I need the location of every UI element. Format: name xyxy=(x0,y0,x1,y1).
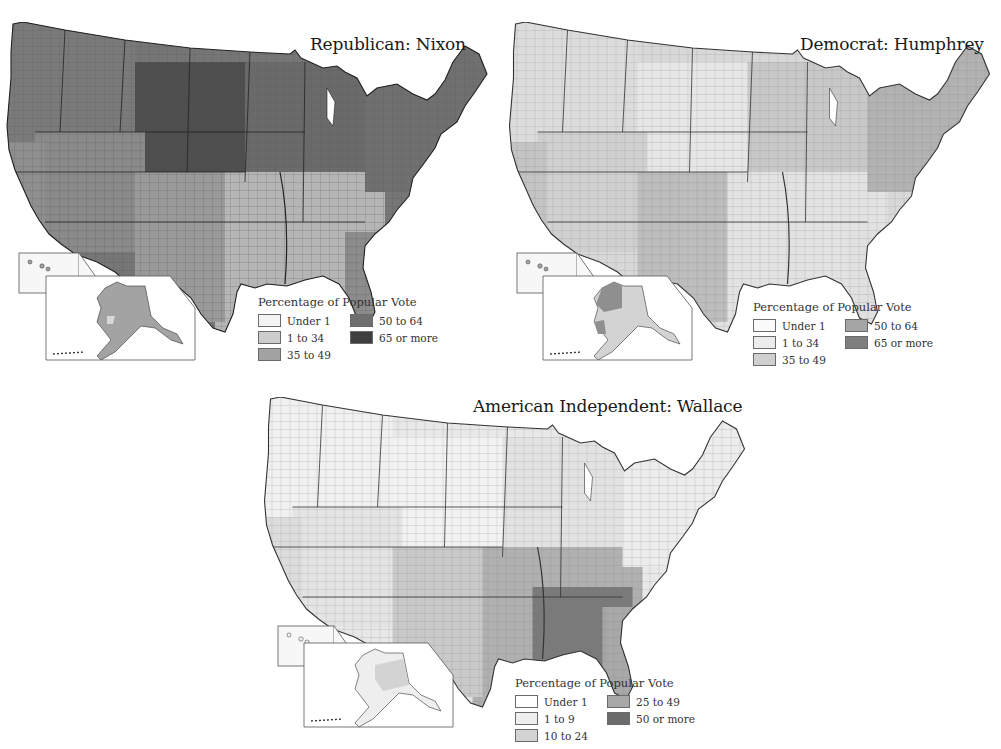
legend-swatch xyxy=(607,695,630,708)
legend-swatch xyxy=(258,331,281,344)
legend-swatch xyxy=(845,319,868,332)
legend-item-35-49: 35 to 49 xyxy=(753,353,845,366)
map-panel-nixon: Republican: Nixon Percentage of Popular … xyxy=(0,0,485,385)
legend-swatch xyxy=(753,353,776,366)
map-title-humphrey: Democrat: Humphrey xyxy=(800,34,984,54)
legend-swatch xyxy=(258,314,281,327)
legend-item-under-1: Under 1 xyxy=(753,319,845,332)
legend-item-under-1: Under 1 xyxy=(515,695,607,708)
legend-item-65-more: 65 or more xyxy=(845,336,935,349)
map-panel-humphrey: Democrat: Humphrey Percentage of Popular… xyxy=(500,0,1001,385)
legend-item-under-1: Under 1 xyxy=(258,314,350,327)
legend-wallace: Percentage of Popular Vote Under 1 25 to… xyxy=(515,676,697,742)
legend-item-65-more: 65 or more xyxy=(350,331,440,344)
alaska-inset xyxy=(542,268,702,368)
legend-swatch xyxy=(753,319,776,332)
alaska-inset xyxy=(45,268,205,368)
legend-item-1-9: 1 to 9 xyxy=(515,712,607,725)
legend-title: Percentage of Popular Vote xyxy=(753,300,935,314)
legend-swatch xyxy=(258,348,281,361)
legend-item-1-34: 1 to 34 xyxy=(258,331,350,344)
map-title-nixon: Republican: Nixon xyxy=(310,34,466,54)
legend-swatch xyxy=(845,336,868,349)
map-title-wallace: American Independent: Wallace xyxy=(473,396,742,416)
legend-nixon: Percentage of Popular Vote Under 1 50 to… xyxy=(258,295,440,361)
legend-item-35-49: 35 to 49 xyxy=(258,348,350,361)
legend-swatch xyxy=(515,729,538,742)
legend-item-25-49: 25 to 49 xyxy=(607,695,697,708)
legend-title: Percentage of Popular Vote xyxy=(258,295,440,309)
legend-item-50-64: 50 to 64 xyxy=(350,314,440,327)
alaska-inset xyxy=(303,635,463,735)
legend-item-50-64: 50 to 64 xyxy=(845,319,935,332)
legend-item-10-24: 10 to 24 xyxy=(515,729,607,742)
legend-item-1-34: 1 to 34 xyxy=(753,336,845,349)
legend-item-50-more: 50 or more xyxy=(607,712,697,725)
legend-swatch xyxy=(350,314,373,327)
legend-swatch xyxy=(350,331,373,344)
legend-swatch xyxy=(607,712,630,725)
legend-humphrey: Percentage of Popular Vote Under 1 50 to… xyxy=(753,300,935,366)
legend-swatch xyxy=(753,336,776,349)
legend-swatch xyxy=(515,712,538,725)
legend-title: Percentage of Popular Vote xyxy=(515,676,697,690)
legend-swatch xyxy=(515,695,538,708)
map-panel-wallace: American Independent: Wallace Percentage… xyxy=(255,385,755,749)
